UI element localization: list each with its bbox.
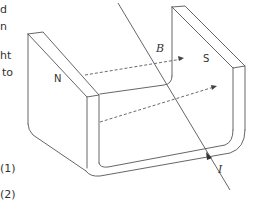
- wire-overlay: N S B I: [0, 0, 257, 206]
- field-label: B: [155, 42, 164, 55]
- south-label: S: [203, 53, 209, 64]
- current-label: I: [217, 163, 223, 176]
- north-label: N: [54, 73, 61, 84]
